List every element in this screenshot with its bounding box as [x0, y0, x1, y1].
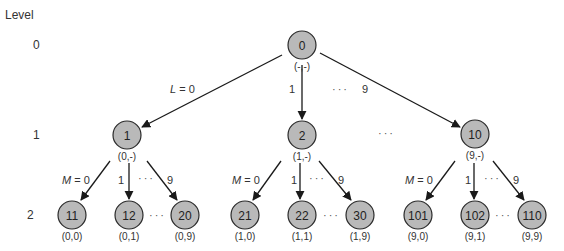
node-pair: (-,-) [294, 61, 310, 72]
node-id: 12 [122, 209, 136, 223]
node-id: 21 [238, 209, 252, 223]
node-pair: (9,9) [522, 231, 543, 242]
node-id: 2 [299, 129, 306, 143]
node-10: 10(9,-) [461, 120, 489, 161]
node-102: 102(9,1) [461, 201, 489, 242]
node-20: 20(0,9) [171, 201, 199, 242]
node-id: 1 [124, 129, 131, 143]
node-pair: (9,1) [465, 231, 486, 242]
ellipsis-icon: ··· [378, 127, 395, 139]
node-pair: (9,0) [408, 231, 429, 242]
edge-label-10-to-110: 9 [513, 174, 519, 186]
ellipsis-icon: ··· [149, 209, 166, 221]
edge-label-10-to-101: M = 0 [405, 174, 433, 186]
node-id: 22 [295, 209, 309, 223]
node-2: 2(1,-) [288, 121, 316, 162]
node-id: 30 [353, 209, 367, 223]
ellipsis-icon: ··· [495, 209, 512, 221]
node-id: 102 [465, 209, 485, 223]
node-101: 101(9,0) [404, 201, 432, 242]
ellipsis-icon: ··· [332, 83, 349, 95]
node-pair: (1,9) [350, 231, 371, 242]
nodes: 0(-,-)1(0,-)2(1,-)10(9,-)11(0,0)12(0,1)2… [58, 31, 546, 242]
edge-label-2-to-22: 1 [291, 174, 297, 186]
node-11: 11(0,0) [58, 201, 86, 242]
edge-label-1-to-20: 9 [167, 174, 173, 186]
level-label-2: 2 [27, 208, 34, 222]
node-30: 30(1,9) [346, 201, 374, 242]
level-label-0: 0 [33, 38, 40, 52]
node-pair: (1,0) [235, 231, 256, 242]
edge-label-1-to-12: 1 [118, 174, 124, 186]
ellipsis-markers: ························ [138, 83, 512, 221]
search-tree-diagram: Level 012 L = 019M = 019M = 019M = 019 ·… [0, 0, 564, 251]
node-pair: (0,-) [118, 151, 136, 162]
ellipsis-icon: ··· [484, 172, 501, 184]
node-id: 11 [66, 209, 79, 223]
node-pair: (1,-) [293, 151, 311, 162]
node-pair: (0,1) [119, 231, 140, 242]
node-21: 21(1,0) [231, 201, 259, 242]
ellipsis-icon: ··· [138, 172, 155, 184]
level-axis: Level 012 [5, 8, 40, 222]
edge-label-0-to-2: 1 [289, 83, 295, 95]
edge-label-0-to-10: 9 [362, 83, 368, 95]
edge-label-10-to-102: 1 [465, 174, 471, 186]
node-id: 20 [178, 209, 192, 223]
node-22: 22(1,1) [288, 201, 316, 242]
node-0: 0(-,-) [288, 31, 316, 72]
edge-label-2-to-30: 9 [338, 174, 344, 186]
edge-label-2-to-21: M = 0 [232, 174, 260, 186]
node-110: 110(9,9) [518, 201, 546, 242]
ellipsis-icon: ··· [323, 209, 340, 221]
node-1: 1(0,-) [113, 121, 141, 162]
level-header: Level [5, 8, 34, 22]
node-pair: (0,9) [175, 231, 196, 242]
node-pair: (0,0) [62, 231, 83, 242]
node-id: 101 [408, 209, 428, 223]
edge-label-0-to-1: L = 0 [170, 83, 195, 95]
node-id: 10 [468, 128, 482, 142]
node-id: 0 [299, 39, 306, 53]
node-pair: (9,-) [466, 150, 484, 161]
node-12: 12(0,1) [115, 201, 143, 242]
level-label-1: 1 [33, 128, 40, 142]
ellipsis-icon: ··· [309, 172, 326, 184]
edge-label-1-to-11: M = 0 [62, 174, 90, 186]
node-pair: (1,1) [292, 231, 313, 242]
edge-0-to-1 [142, 55, 282, 127]
node-id: 110 [522, 209, 541, 223]
